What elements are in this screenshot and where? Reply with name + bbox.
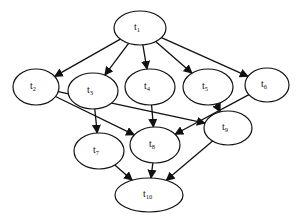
edge-t8-to-t10 [151, 163, 153, 178]
node-t1: t1 [114, 11, 166, 45]
node-t4: t4 [125, 69, 175, 105]
edge-t1-to-t3 [105, 43, 129, 75]
edge-t1-to-t4 [143, 45, 147, 69]
arrow-icon [156, 42, 192, 74]
edge-t4-to-t8 [152, 105, 154, 127]
node-t8: t8 [130, 127, 180, 163]
arrow-icon [105, 43, 129, 75]
node-t5: t5 [183, 69, 233, 105]
arrow-icon [115, 165, 132, 180]
edge-t7-to-t10 [115, 165, 132, 180]
edge-t1-to-t5 [156, 42, 192, 74]
node-t9: t9 [204, 111, 252, 145]
edge-t1-to-t2 [55, 39, 121, 76]
node-t7: t7 [74, 133, 124, 169]
node-t2: t2 [13, 69, 59, 105]
task-graph: t1t2t3t4t5t6t7t8t9t10 [0, 0, 297, 221]
arrow-icon [152, 105, 154, 127]
node-t6: t6 [245, 68, 289, 102]
arrow-icon [151, 163, 153, 178]
arrow-icon [95, 109, 97, 133]
arrow-icon [55, 39, 121, 76]
edge-t3-to-t7 [95, 109, 97, 133]
node-t3: t3 [68, 73, 118, 109]
node-t10: t10 [115, 178, 183, 212]
arrow-icon [143, 45, 147, 69]
